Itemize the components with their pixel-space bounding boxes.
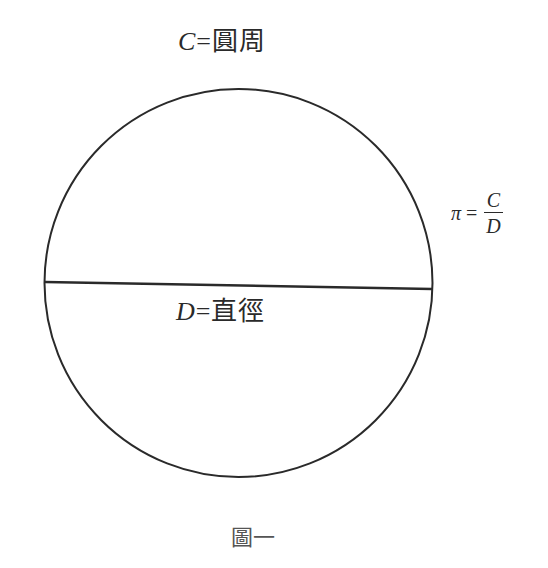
diameter-label: D=直徑: [176, 290, 265, 327]
circle-diagram: [0, 0, 548, 568]
equals-sign: =: [196, 297, 212, 326]
circumference-label: C=圓周: [178, 20, 266, 57]
circumference-symbol: C: [178, 27, 196, 56]
fraction: C D: [483, 188, 503, 239]
circumference-text: 圓周: [212, 27, 266, 56]
diameter-line: [45, 282, 432, 289]
equals-sign: =: [466, 202, 477, 225]
pi-formula: π = C D: [451, 188, 504, 239]
fraction-numerator: C: [484, 188, 503, 213]
diameter-text: 直徑: [211, 297, 265, 326]
pi-symbol: π: [451, 202, 461, 225]
figure-canvas: C=圓周 D=直徑 π = C D 圖一: [0, 0, 548, 568]
fraction-denominator: D: [483, 213, 503, 239]
equals-sign: =: [196, 27, 212, 56]
diameter-symbol: D: [176, 297, 196, 326]
figure-caption: 圖一: [231, 519, 275, 551]
